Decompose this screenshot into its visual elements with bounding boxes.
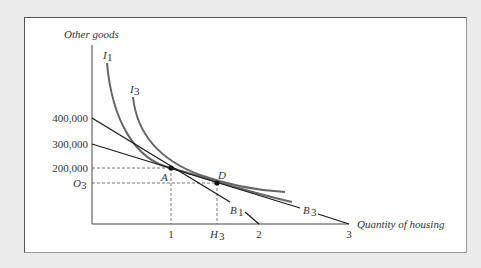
label-i1: I 1 [102,49,113,63]
svg-text:1: 1 [107,51,113,63]
svg-text:1: 1 [238,206,244,218]
svg-text:3: 3 [311,206,317,218]
point-a-label: A [160,171,168,183]
indifference-curve-i3 [133,97,285,192]
x-tick-3: 3 [346,228,352,240]
svg-text:B: B [303,204,310,216]
y-tick-o3: O 3 [73,177,87,191]
svg-text:3: 3 [81,179,87,191]
y-axis-label: Other goods [64,28,119,40]
y-tick-200000: 200,000 [52,162,88,174]
label-b1: B 1 [230,204,244,218]
x-tick-1: 1 [168,228,174,240]
y-tick-400000: 400,000 [52,112,88,124]
svg-text:H: H [209,228,219,240]
x-tick-h3: H 3 [209,228,225,242]
point-d-label: D [217,169,226,181]
label-b3: B 3 [303,204,317,218]
svg-text:3: 3 [219,230,225,242]
svg-text:O: O [73,177,81,189]
diagram-canvas: Other goods Quantity of housing 400,000 … [0,0,481,268]
indifference-curve-i1 [107,63,292,202]
svg-text:B: B [230,204,237,216]
x-tick-2: 2 [256,228,262,240]
svg-text:3: 3 [134,85,140,97]
label-i3: I 3 [129,83,140,97]
point-d [214,180,219,185]
y-tick-300000: 300,000 [52,138,88,150]
x-axis-label: Quantity of housing [357,218,445,230]
point-a [168,165,173,170]
